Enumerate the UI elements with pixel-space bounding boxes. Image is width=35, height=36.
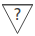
unknown-warning-icon: ? — [0, 0, 35, 36]
question-mark-icon: ? — [0, 7, 35, 23]
